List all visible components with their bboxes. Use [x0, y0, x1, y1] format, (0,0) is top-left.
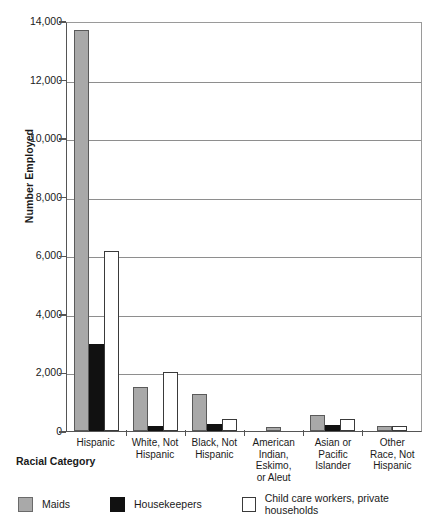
x-axis-label-line: Indian,: [245, 449, 302, 461]
x-axis-label-line: Other: [364, 437, 421, 449]
bar: [163, 372, 178, 431]
y-axis-tick-mark: [59, 21, 66, 22]
x-axis-label-line: Race, Not: [364, 449, 421, 461]
x-axis-category-label: Asian orPacificIslander: [303, 437, 362, 483]
x-axis-label-line: Black, Not: [186, 437, 243, 449]
x-axis-tick-mark: [244, 430, 245, 436]
x-axis-category-label: White, NotHispanic: [125, 437, 184, 483]
x-axis-category-label: OtherRace, NotHispanic: [363, 437, 422, 483]
x-axis-category-label: Black, NotHispanic: [185, 437, 244, 483]
legend-label: Maids: [42, 498, 70, 510]
legend-item: Maids: [18, 497, 70, 512]
bar-group: [244, 23, 303, 431]
y-axis-tick-label: 12,000: [0, 75, 62, 85]
y-axis-tick-mark: [59, 373, 66, 374]
x-axis-label-line: Hispanic: [364, 460, 421, 472]
bar-chart: Number Employed 02,0004,0006,0008,00010,…: [0, 0, 438, 523]
x-axis-category-labels: HispanicWhite, NotHispanicBlack, NotHisp…: [66, 437, 422, 483]
bar-group: [303, 23, 362, 431]
legend-swatch-childcare: [242, 497, 256, 512]
legend-label: Housekeepers: [134, 498, 202, 510]
plot-area: [66, 22, 422, 432]
bar: [89, 344, 104, 431]
y-axis-tick-mark: [59, 431, 66, 432]
bar-group: [67, 23, 126, 431]
x-axis-label-line: Islander: [304, 460, 361, 472]
y-axis-tick-mark: [59, 256, 66, 257]
x-axis-label-line: Pacific: [304, 449, 361, 461]
bar-group: [126, 23, 185, 431]
y-axis-tick-label: 6,000: [0, 250, 62, 260]
bar: [104, 251, 119, 431]
legend-item: Child care workers, private households: [242, 492, 430, 516]
bar: [192, 394, 207, 431]
bar: [325, 425, 340, 431]
chart-legend: MaidsHousekeepersChild care workers, pri…: [18, 492, 430, 516]
legend-item: Housekeepers: [110, 497, 202, 512]
x-axis-tick-mark: [362, 430, 363, 436]
y-axis-tick-mark: [59, 80, 66, 81]
y-axis-tick-label: 0: [0, 426, 62, 436]
bar: [74, 30, 89, 431]
bar: [377, 426, 392, 431]
bar: [266, 427, 281, 431]
y-axis-tick-label: 10,000: [0, 133, 62, 143]
bar-group: [185, 23, 244, 431]
x-axis-label-line: Hispanic: [67, 437, 124, 449]
y-axis-tick-label: 2,000: [0, 367, 62, 377]
legend-swatch-housekeepers: [110, 497, 125, 512]
y-axis-tick-mark: [59, 138, 66, 139]
bar: [133, 387, 148, 431]
x-axis-label-line: Asian or: [304, 437, 361, 449]
bar: [310, 415, 325, 431]
y-axis-tick-mark: [59, 314, 66, 315]
legend-label: Child care workers, private households: [265, 492, 430, 516]
x-axis-tick-mark: [185, 430, 186, 436]
x-axis-label-line: Eskimo,: [245, 460, 302, 472]
x-axis-tick-mark: [126, 430, 127, 436]
y-axis-title: Number Employed: [23, 101, 35, 251]
x-axis-label-line: American: [245, 437, 302, 449]
bar: [222, 419, 237, 431]
x-axis-label-line: Hispanic: [126, 449, 183, 461]
legend-swatch-maids: [18, 497, 33, 512]
y-axis-tick-label: 4,000: [0, 309, 62, 319]
y-axis-tick-label: 8,000: [0, 192, 62, 202]
bar-group: [362, 23, 421, 431]
bar: [148, 426, 163, 431]
bar: [392, 426, 407, 431]
x-axis-label-line: Hispanic: [186, 449, 243, 461]
bar: [340, 419, 355, 431]
y-axis-tick-mark: [59, 197, 66, 198]
y-axis-tick-label: 14,000: [0, 16, 62, 26]
x-axis-title: Racial Category: [16, 455, 95, 467]
x-axis-category-label: AmericanIndian,Eskimo,or Aleut: [244, 437, 303, 483]
x-axis-label-line: White, Not: [126, 437, 183, 449]
bar: [207, 424, 222, 431]
bar-groups: [67, 23, 421, 431]
x-axis-tick-mark: [303, 430, 304, 436]
x-axis-label-line: or Aleut: [245, 472, 302, 484]
